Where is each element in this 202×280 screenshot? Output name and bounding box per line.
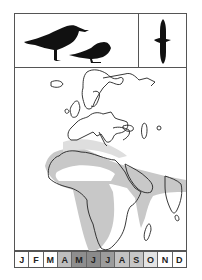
month-jun: J <box>87 252 101 267</box>
month-label: J <box>105 255 110 265</box>
breeding-range-area <box>45 148 186 251</box>
species-card-frame <box>14 13 187 251</box>
bird-illustration-panel <box>15 14 187 68</box>
month-jan: J <box>15 252 29 267</box>
month-label: M <box>75 255 83 265</box>
month-sep: S <box>130 252 144 267</box>
month-label: J <box>19 255 24 265</box>
month-label: N <box>162 255 169 265</box>
month-label: O <box>147 255 154 265</box>
month-label: A <box>119 255 126 265</box>
month-apr: A <box>58 252 72 267</box>
month-label: M <box>47 255 55 265</box>
month-occurrence-bar: J F M A M J J A S O N D <box>14 251 187 268</box>
range-map <box>15 68 186 251</box>
month-label: A <box>61 255 68 265</box>
month-jul: J <box>101 252 115 267</box>
month-dec: D <box>173 252 186 267</box>
month-feb: F <box>29 252 43 267</box>
flight-panel <box>139 14 186 67</box>
month-aug: A <box>115 252 129 267</box>
month-label: D <box>176 255 183 265</box>
month-label: S <box>133 255 139 265</box>
perched-birds-panel <box>15 14 139 67</box>
bird-crouching-silhouette-icon <box>15 14 138 67</box>
range-map-svg <box>15 68 186 251</box>
month-mar: M <box>44 252 58 267</box>
month-nov: N <box>158 252 172 267</box>
month-may: M <box>72 252 86 267</box>
month-label: F <box>33 255 39 265</box>
month-oct: O <box>144 252 158 267</box>
bird-in-flight-silhouette-icon <box>139 14 186 67</box>
month-label: J <box>91 255 96 265</box>
